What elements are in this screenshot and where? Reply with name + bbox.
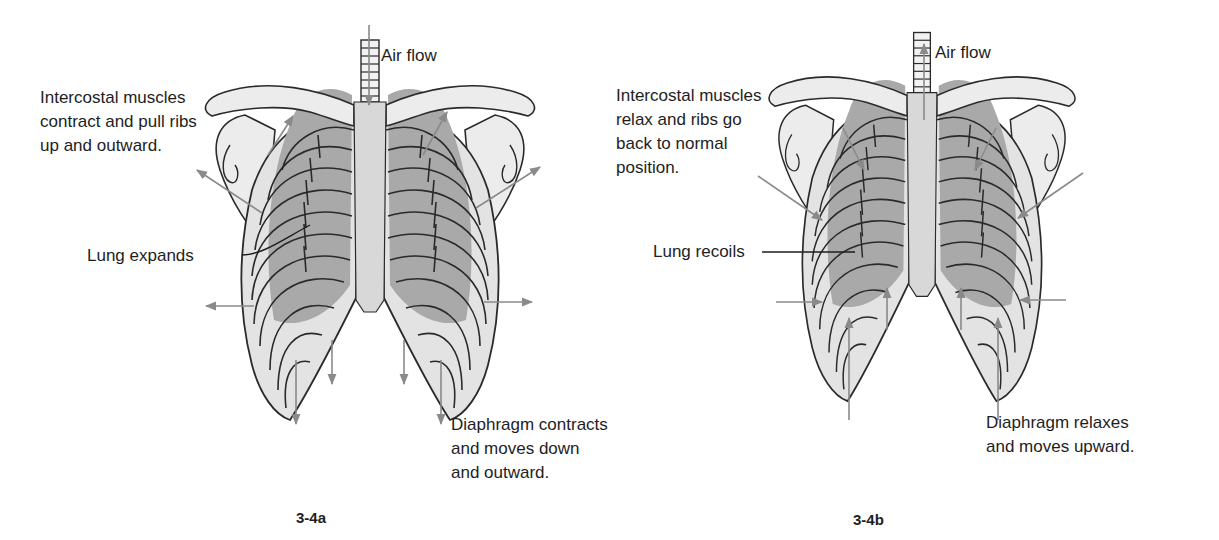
figure-caption-a: 3-4a bbox=[296, 509, 326, 526]
lung-recoils-label: Lung recoils bbox=[653, 240, 745, 264]
ribcage-illustration-a bbox=[206, 40, 535, 421]
airflow-label-a: Air flow bbox=[381, 44, 437, 68]
diagram-canvas bbox=[0, 0, 1219, 540]
diaphragm-relaxes-label: Diaphragm relaxes and moves upward. bbox=[986, 411, 1134, 459]
ribcage-illustration-b bbox=[769, 32, 1075, 401]
intercostal-label-b: Intercostal muscles relax and ribs go ba… bbox=[616, 84, 762, 180]
figure-caption-b: 3-4b bbox=[853, 511, 884, 528]
airflow-label-b: Air flow bbox=[935, 41, 991, 65]
diaphragm-contracts-label: Diaphragm contracts and moves down and o… bbox=[451, 413, 608, 485]
intercostal-label-a: Intercostal muscles contract and pull ri… bbox=[40, 86, 197, 158]
lung-expands-label: Lung expands bbox=[87, 244, 194, 268]
